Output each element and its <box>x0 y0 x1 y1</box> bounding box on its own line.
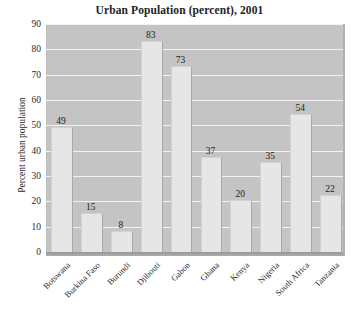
y-axis-tick-label: 60 <box>13 95 41 105</box>
y-axis-tick-label: 10 <box>13 222 41 232</box>
bar-value-label: 22 <box>310 184 350 194</box>
y-axis-tick-label: 0 <box>13 247 41 257</box>
x-axis-tick-label: Ghana <box>199 260 222 283</box>
bar <box>171 66 193 252</box>
x-axis-tick-label: Nigeria <box>256 260 281 285</box>
bar <box>51 127 73 252</box>
y-axis-tick-label: 40 <box>13 146 41 156</box>
bar-value-label: 49 <box>41 116 81 126</box>
bar <box>260 162 282 252</box>
chart-figure: Urban Population (percent), 2001 Percent… <box>0 0 359 326</box>
bar-value-label: 83 <box>131 30 171 40</box>
bar <box>141 41 163 252</box>
bar <box>201 157 223 252</box>
gridline <box>46 75 345 76</box>
chart-title: Urban Population (percent), 2001 <box>0 4 359 16</box>
bar <box>230 200 252 252</box>
bar-value-label: 37 <box>190 146 230 156</box>
y-axis-tick-label: 20 <box>13 196 41 206</box>
bar-value-label: 54 <box>280 103 320 113</box>
gridline <box>46 100 345 101</box>
bar-value-label: 20 <box>220 189 260 199</box>
gridline <box>46 49 345 50</box>
y-axis-tick-label: 80 <box>13 44 41 54</box>
x-axis-tick-label: Tanzania <box>312 260 341 289</box>
bar <box>111 231 133 252</box>
y-axis-tick-label: 30 <box>13 171 41 181</box>
bar <box>81 213 103 252</box>
y-axis-tick-label: 50 <box>13 120 41 130</box>
x-axis-tick-label: Kenya <box>228 260 251 283</box>
bar-value-label: 73 <box>161 55 201 65</box>
bar <box>320 195 342 252</box>
x-axis-tick-label: Gabon <box>168 260 191 283</box>
x-axis-tick-label: Burundi <box>105 260 132 287</box>
y-axis-tick-label: 90 <box>13 19 41 29</box>
x-axis-tick-label: Djibouti <box>134 260 161 287</box>
y-axis-tick-label: 70 <box>13 70 41 80</box>
gridline <box>46 24 345 25</box>
bar-value-label: 8 <box>101 220 141 230</box>
axis-baseline <box>46 252 345 256</box>
bar <box>290 114 312 252</box>
bar-value-label: 15 <box>71 202 111 212</box>
bar-value-label: 35 <box>250 151 290 161</box>
